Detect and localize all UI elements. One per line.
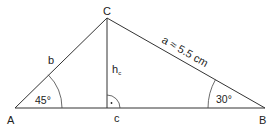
side-b-line bbox=[15, 18, 107, 108]
triangle-diagram: A B C c b a ≈ 5.5 cm hc 45° 30° bbox=[0, 0, 275, 129]
right-angle-arc bbox=[107, 95, 120, 108]
angle-a-label: 45° bbox=[35, 94, 51, 106]
side-a-label: a ≈ 5.5 cm bbox=[160, 33, 210, 69]
vertex-a-label: A bbox=[7, 114, 15, 126]
angle-b-label: 30° bbox=[216, 93, 232, 105]
altitude-label: hc bbox=[112, 63, 121, 76]
vertex-b-label: B bbox=[259, 114, 266, 126]
vertex-c-label: C bbox=[103, 5, 111, 17]
angle-b-arc bbox=[208, 80, 216, 108]
side-c-label: c bbox=[114, 112, 120, 124]
side-b-label: b bbox=[48, 54, 54, 66]
side-a-line bbox=[107, 18, 265, 108]
right-angle-dot bbox=[111, 102, 113, 104]
